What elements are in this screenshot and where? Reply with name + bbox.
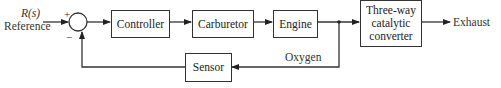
converter-label-line2: catalytic bbox=[372, 17, 411, 30]
engine-label: Engine bbox=[279, 18, 312, 31]
sensor-block: Sensor bbox=[185, 53, 232, 82]
summing-junction bbox=[69, 13, 87, 31]
input-label: Reference bbox=[4, 20, 51, 32]
exhaust-label: Exhaust bbox=[453, 16, 490, 28]
plus-sign: + bbox=[64, 9, 70, 20]
input-symbol: R(s) bbox=[21, 7, 40, 19]
engine-emission-control-diagram: R(s) Reference + − Controller Carburetor… bbox=[0, 0, 501, 88]
oxygen-label: Oxygen bbox=[285, 51, 321, 63]
minus-sign: − bbox=[66, 32, 72, 43]
carburetor-label: Carburetor bbox=[198, 18, 248, 31]
controller-block: Controller bbox=[111, 10, 170, 38]
sensor-label: Sensor bbox=[193, 61, 224, 74]
carburetor-block: Carburetor bbox=[192, 10, 254, 38]
converter-label-line3: converter bbox=[369, 30, 412, 43]
converter-label-line1: Three-way bbox=[366, 4, 416, 17]
engine-block: Engine bbox=[273, 10, 318, 38]
converter-block: Three-way catalytic converter bbox=[360, 0, 422, 47]
controller-label: Controller bbox=[117, 18, 164, 31]
